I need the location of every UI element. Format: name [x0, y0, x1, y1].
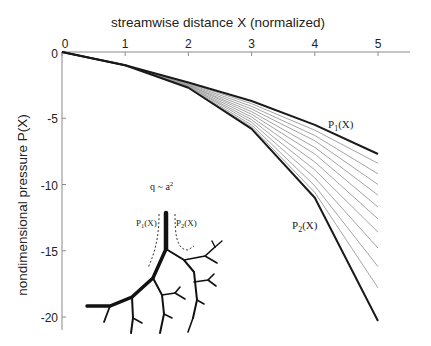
x-tick-label: 1	[122, 37, 129, 51]
x-tick-label: 2	[185, 37, 192, 51]
y-tick-label: 0	[51, 47, 58, 61]
y-axis-title: nondimensional pressure P(X)	[15, 114, 30, 296]
y-tick-label: -15	[41, 245, 59, 259]
branching-tree-inset: q ~ a2 P1(X) P2(X)	[87, 180, 222, 333]
inset-p1-label: P1(X)	[136, 218, 157, 229]
series-intermediate	[62, 52, 378, 174]
series-intermediate	[62, 52, 378, 248]
series-intermediate	[62, 52, 378, 288]
series-intermediate	[62, 52, 378, 232]
p1-annotation: P1(X)	[328, 118, 354, 133]
x-tick-label: 3	[248, 37, 255, 51]
series-intermediate	[62, 52, 378, 219]
x-tick-label: 0	[62, 37, 69, 51]
pressure-chart: streamwise distance X (normalized) nondi…	[0, 0, 431, 346]
p2-annotation: P2(X)	[292, 219, 318, 234]
x-tick-label: 4	[311, 37, 318, 51]
x-ticks: 012345	[62, 37, 382, 56]
y-tick-label: -10	[41, 179, 59, 193]
y-tick-label: -20	[41, 311, 59, 325]
series-group	[62, 52, 378, 321]
y-tick-label: -5	[47, 112, 58, 126]
x-tick-label: 5	[375, 37, 382, 51]
axes: 012345 0-5-10-15-20	[41, 37, 410, 330]
inset-q-label: q ~ a2	[150, 180, 174, 192]
inset-p2-label: P2(X)	[176, 218, 197, 229]
x-axis-title: streamwise distance X (normalized)	[111, 15, 325, 30]
